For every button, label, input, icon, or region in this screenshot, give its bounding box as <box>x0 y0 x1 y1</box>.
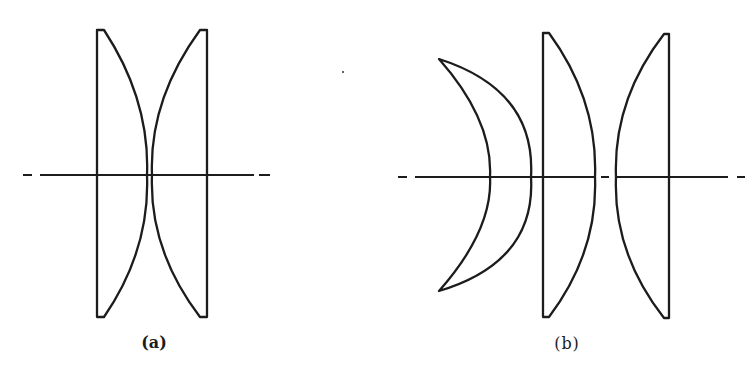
panel-label-b: (b) <box>554 334 580 353</box>
panel-b <box>398 33 745 318</box>
lens-a-right <box>152 30 207 317</box>
lens-b-meniscus <box>439 59 531 291</box>
lens-diagram <box>0 0 756 368</box>
lens-b-middle <box>543 33 595 317</box>
scan-speck <box>342 71 344 73</box>
panel-a <box>23 30 270 317</box>
lens-a-left <box>97 30 147 317</box>
panel-label-a: (a) <box>141 333 167 352</box>
